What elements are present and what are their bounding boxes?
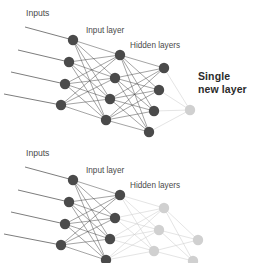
label-hidden-layers: Hidden layers: [130, 41, 180, 50]
network-edge: [110, 208, 164, 239]
input-lead-line: [18, 50, 69, 62]
network-edge: [73, 40, 106, 120]
network-node-input-layer: [56, 240, 66, 250]
network-node-input-layer: [56, 100, 66, 110]
network-node-hidden-layer-1: [110, 73, 120, 83]
network-edge: [69, 195, 120, 202]
network-node-hidden-layer-1: [110, 213, 120, 223]
neural-network-multiple: InputsInput layerHidden layers: [0, 140, 269, 263]
network-node-input-layer: [60, 79, 70, 89]
network-edge: [69, 62, 106, 120]
network-edge: [115, 68, 164, 78]
diagram-single-new-layer: InputsInput layerHidden layers Single ne…: [0, 0, 269, 140]
network-node-input-layer: [64, 197, 74, 207]
caption-line-2: new layer: [198, 83, 247, 96]
network-edge: [154, 110, 190, 111]
network-edge: [159, 90, 190, 110]
label-inputs: Inputs: [26, 8, 49, 18]
network-node-hidden-layer-1: [105, 94, 115, 104]
network-edge: [73, 40, 115, 78]
input-lead-line: [25, 27, 73, 40]
network-node-hidden-layer-2: [149, 106, 159, 116]
network-node-input-layer: [64, 57, 74, 67]
caption-single-new-layer: Single new layer: [198, 70, 247, 95]
network-edge: [61, 99, 110, 105]
network-node-hidden-layer-1: [105, 234, 115, 244]
input-lead-line: [11, 72, 65, 84]
network-edge: [106, 90, 159, 120]
network-edge: [106, 251, 154, 260]
label-inputs: Inputs: [26, 148, 49, 158]
network-edge: [69, 55, 120, 62]
network-node-hidden-layer-1: [115, 50, 125, 60]
label-input-layer: Input layer: [86, 26, 125, 35]
network-edge: [106, 111, 154, 120]
network-edge: [120, 55, 149, 132]
network-node-input-layer: [60, 219, 70, 229]
network-edge: [69, 202, 106, 260]
network-edge: [61, 239, 110, 245]
network-node-new-layer-2: [188, 256, 198, 263]
network-node-hidden-layer-2: [159, 63, 169, 73]
diagram-multiple-new-layers: InputsInput layerHidden layers Multiple …: [0, 140, 269, 263]
network-node-hidden-layer-1: [101, 255, 111, 263]
network-edge: [164, 208, 198, 240]
network-node-new-layer-2: [193, 235, 203, 245]
network-edge: [154, 240, 198, 251]
network-edge: [73, 180, 106, 260]
input-lead-line: [4, 234, 61, 245]
network-edge: [73, 180, 120, 195]
input-lead-line: [11, 212, 65, 224]
network-node-hidden-layer-2: [154, 85, 164, 95]
network-edge: [115, 208, 164, 218]
network-node-new-layer: [185, 105, 195, 115]
network-node-hidden-layer-2: [144, 127, 154, 137]
label-hidden-layers: Hidden layers: [130, 181, 180, 190]
network-edge: [73, 180, 115, 218]
input-lead-line: [25, 167, 73, 180]
network-edge: [164, 68, 190, 110]
network-node-input-layer: [68, 175, 78, 185]
network-node-hidden-layer-1: [115, 190, 125, 200]
network-edge: [73, 40, 120, 55]
input-lead-line: [18, 190, 69, 202]
network-edge: [61, 245, 106, 260]
network-edge: [164, 208, 193, 261]
network-node-hidden-layer-1: [101, 115, 111, 125]
network-edge: [61, 105, 106, 120]
network-node-new-layer-1: [159, 203, 169, 213]
network-edge: [65, 78, 115, 84]
network-node-new-layer-1: [154, 225, 164, 235]
network-edge: [106, 230, 159, 260]
input-lead-line: [4, 94, 61, 105]
network-edge: [110, 68, 164, 99]
label-input-layer: Input layer: [86, 166, 125, 175]
network-node-input-layer: [68, 35, 78, 45]
network-node-new-layer-1: [149, 246, 159, 256]
caption-line-1: Single: [198, 70, 247, 83]
network-edge: [65, 218, 115, 224]
